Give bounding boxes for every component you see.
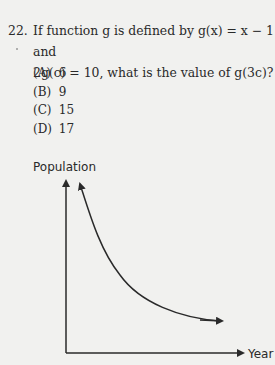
choice-c: (C) 15: [33, 101, 74, 120]
y-axis-label: Population: [33, 160, 96, 174]
choice-d: (D) 17: [33, 120, 74, 139]
question-number: 22.: [8, 20, 28, 41]
decay-curve: [91, 266, 153, 322]
x-axis-label: Year: [248, 347, 273, 361]
choice-a: (A) 6: [33, 64, 74, 83]
choice-b: (B) 9: [33, 83, 74, 102]
question-line-1: If function g is defined by g(x) = x − 1…: [33, 20, 275, 62]
answer-choices: (A) 6 (B) 9 (C) 15 (D) 17: [33, 64, 74, 138]
scan-speck: [16, 48, 18, 50]
